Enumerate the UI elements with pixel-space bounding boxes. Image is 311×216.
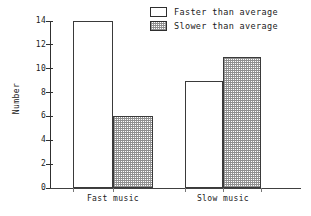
x-axis-tick xyxy=(73,188,74,192)
y-axis-tick-label: 6 xyxy=(22,112,46,120)
y-axis-tick xyxy=(46,116,53,117)
x-axis-line xyxy=(50,188,301,189)
bar xyxy=(113,116,153,188)
bar-chart: Number 02468101214 Fast musicSlow music … xyxy=(0,0,311,216)
y-axis-tick-label: 14 xyxy=(22,17,46,25)
y-axis-tick-label: 4 xyxy=(22,136,46,144)
y-axis-title: Number xyxy=(12,69,21,129)
chart-legend: Faster than average Slower than average xyxy=(150,5,305,33)
y-axis-tick-label: 8 xyxy=(22,89,46,97)
stipple-swatch-icon xyxy=(150,21,167,31)
plain-swatch-icon xyxy=(150,7,167,17)
y-axis-tick-label: 2 xyxy=(22,160,46,168)
y-axis-tick xyxy=(46,44,53,45)
legend-item-slower[interactable]: Slower than average xyxy=(150,19,305,33)
bar xyxy=(185,81,223,188)
x-axis-tick xyxy=(223,188,224,192)
bar xyxy=(223,57,261,188)
y-axis-tick-label: 12 xyxy=(22,41,46,49)
x-axis-category-label: Fast music xyxy=(63,194,163,204)
bar xyxy=(73,21,113,188)
x-axis-tick xyxy=(261,188,262,192)
y-axis-tick-label: 10 xyxy=(22,65,46,73)
legend-item-faster[interactable]: Faster than average xyxy=(150,5,305,19)
y-axis-tick-label: 0 xyxy=(22,184,46,192)
x-axis-tick xyxy=(113,188,114,192)
y-axis-tick xyxy=(46,21,53,22)
legend-item-label: Slower than average xyxy=(174,21,278,31)
y-axis-tick xyxy=(46,140,53,141)
x-axis-category-label: Slow music xyxy=(173,194,273,204)
x-axis-tick xyxy=(185,188,186,192)
legend-item-label: Faster than average xyxy=(174,7,278,17)
y-axis-tick xyxy=(46,164,53,165)
y-axis-tick xyxy=(46,92,53,93)
y-axis-tick xyxy=(46,68,53,69)
